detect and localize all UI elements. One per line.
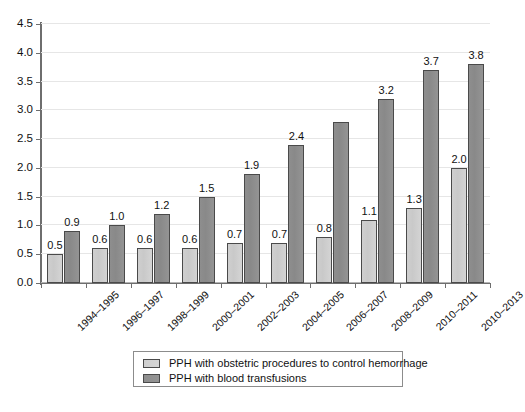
y-tick-label: 4.0 bbox=[17, 47, 33, 59]
x-axis-category-label: 2010–2013 bbox=[479, 289, 525, 333]
chart-legend: PPH with obstetric procedures to control… bbox=[133, 351, 403, 387]
legend-swatch-icon-light bbox=[143, 359, 160, 368]
bar-value-label: 0.6 bbox=[137, 234, 152, 248]
bar-value-label: 3.2 bbox=[379, 85, 394, 99]
bar-value-label: 3.7 bbox=[423, 56, 438, 70]
y-tick-mark bbox=[36, 110, 41, 111]
x-tick-mark bbox=[355, 283, 356, 288]
bar bbox=[423, 70, 439, 283]
bar bbox=[271, 243, 287, 283]
y-tick-label: 0.5 bbox=[17, 248, 33, 260]
legend-item-obstetric-procedures: PPH with obstetric procedures to control… bbox=[143, 356, 428, 370]
bar bbox=[316, 237, 332, 283]
bar bbox=[244, 174, 260, 283]
x-axis-category-label: 1996–1997 bbox=[120, 289, 166, 333]
bar bbox=[451, 168, 467, 283]
x-tick-mark bbox=[221, 283, 222, 288]
x-axis-category-label: 2010–2011 bbox=[434, 289, 479, 332]
y-tick-mark bbox=[36, 139, 41, 140]
bar-value-label: 1.3 bbox=[406, 194, 421, 208]
x-axis-category-label: 2000–2001 bbox=[210, 289, 256, 333]
x-tick-mark bbox=[176, 283, 177, 288]
bar-value-label: 0.5 bbox=[47, 240, 62, 254]
legend-label: PPH with blood transfusions bbox=[169, 373, 307, 384]
bar-value-label: 1.0 bbox=[109, 211, 124, 225]
bar-value-label: 0.8 bbox=[317, 223, 332, 237]
grid-line bbox=[41, 52, 490, 53]
bar-value-label: 1.5 bbox=[199, 183, 214, 197]
bar-value-label: 0.6 bbox=[182, 234, 197, 248]
bar-value-label: 0.9 bbox=[64, 217, 79, 231]
y-tick-label: 3.0 bbox=[17, 105, 33, 117]
y-tick-label: 0.0 bbox=[17, 277, 33, 289]
bar bbox=[227, 243, 243, 283]
y-tick-label: 1.0 bbox=[17, 220, 33, 232]
bar bbox=[154, 214, 170, 283]
y-tick-label: 4.5 bbox=[17, 18, 33, 30]
bar-value-label: 2.0 bbox=[451, 154, 466, 168]
x-axis-category-label: 2006–2007 bbox=[345, 289, 391, 333]
bar-value-label: 1.2 bbox=[154, 200, 169, 214]
plot-area: 0.50.90.61.00.61.20.61.50.71.90.72.40.81… bbox=[41, 24, 490, 283]
bar bbox=[137, 248, 153, 283]
footer-cutoff-text bbox=[188, 404, 378, 410]
bar-value-label: 1.1 bbox=[362, 206, 377, 220]
x-tick-mark bbox=[400, 283, 401, 288]
bar bbox=[406, 208, 422, 283]
y-tick-mark bbox=[36, 53, 41, 54]
x-axis-category-label: 2004–2005 bbox=[300, 289, 346, 333]
y-tick-mark bbox=[36, 225, 41, 226]
x-tick-mark bbox=[41, 283, 42, 288]
legend-item-blood-transfusions: PPH with blood transfusions bbox=[143, 371, 307, 385]
bar-value-label: 3.8 bbox=[468, 50, 483, 64]
x-tick-mark bbox=[266, 283, 267, 288]
bar bbox=[199, 197, 215, 283]
x-axis-category-label: 2008–2009 bbox=[389, 289, 435, 333]
grid-line bbox=[41, 23, 490, 24]
bar-value-label: 0.7 bbox=[227, 229, 242, 243]
x-tick-mark bbox=[131, 283, 132, 288]
y-tick-label: 1.5 bbox=[17, 191, 33, 203]
y-tick-mark bbox=[36, 82, 41, 83]
x-tick-mark bbox=[490, 283, 491, 288]
y-tick-mark bbox=[36, 254, 41, 255]
bar bbox=[468, 64, 484, 283]
bar-value-label: 1.9 bbox=[244, 160, 259, 174]
y-tick-mark bbox=[36, 197, 41, 198]
bar bbox=[288, 145, 304, 283]
bar bbox=[109, 225, 125, 283]
x-tick-mark bbox=[86, 283, 87, 288]
y-tick-label: 2.5 bbox=[17, 133, 33, 145]
bar bbox=[47, 254, 63, 283]
legend-swatch-icon-dark bbox=[143, 374, 160, 383]
x-tick-mark bbox=[445, 283, 446, 288]
bar bbox=[361, 220, 377, 283]
y-tick-label: 2.0 bbox=[17, 162, 33, 174]
bar-value-label: 2.4 bbox=[289, 131, 304, 145]
bar-value-label: 0.7 bbox=[272, 229, 287, 243]
legend-label: PPH with obstetric procedures to control… bbox=[169, 358, 428, 369]
x-axis-category-label: 2002–2003 bbox=[255, 289, 301, 333]
y-tick-mark bbox=[36, 24, 41, 25]
bar bbox=[64, 231, 80, 283]
x-tick-mark bbox=[310, 283, 311, 288]
y-tick-mark bbox=[36, 168, 41, 169]
bar bbox=[333, 122, 349, 283]
bar-value-label: 0.6 bbox=[92, 234, 107, 248]
x-axis-category-label: 1998–1999 bbox=[165, 289, 211, 333]
bar bbox=[182, 248, 198, 283]
bar bbox=[92, 248, 108, 283]
x-axis-category-label: 1994–1995 bbox=[75, 289, 121, 333]
bar bbox=[378, 99, 394, 283]
y-tick-label: 3.5 bbox=[17, 76, 33, 88]
